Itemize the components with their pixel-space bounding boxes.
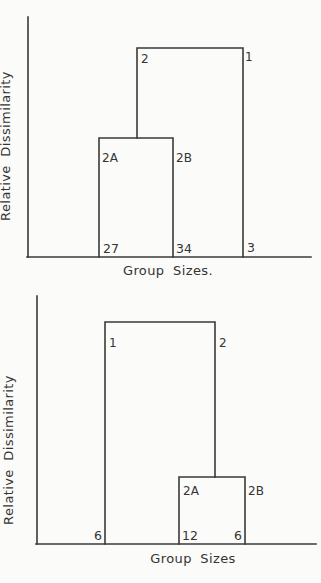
inner-left-cluster-label: 2A xyxy=(102,151,119,165)
y-axis-label: Relative Dissimilarity xyxy=(0,71,13,221)
leaf-size-right: 3 xyxy=(247,240,255,255)
x-axis-label: Group Sizes xyxy=(150,551,236,566)
inner-left-cluster-label: 2A xyxy=(183,484,200,498)
dendrogram-figure: 2 1 2A 2B 27 34 3 Group Sizes. Relative … xyxy=(0,0,321,583)
outer-right-cluster-label: 1 xyxy=(245,50,253,64)
lower-dendrogram: 1 2 2A 2B 6 12 6 Group Sizes Relative Di… xyxy=(0,290,321,583)
outer-cluster-link xyxy=(105,322,215,544)
outer-left-cluster-label: 1 xyxy=(109,336,117,350)
x-axis-label: Group Sizes. xyxy=(123,263,213,278)
y-axis-label: Relative Dissimilarity xyxy=(1,375,16,525)
leaf-size-mid: 12 xyxy=(182,528,198,543)
leaf-size-left: 6 xyxy=(94,528,102,543)
upper-dendrogram-panel: 2 1 2A 2B 27 34 3 Group Sizes. Relative … xyxy=(0,0,321,290)
leaf-size-left: 27 xyxy=(103,241,119,256)
outer-left-cluster-label: 2 xyxy=(141,52,149,66)
outer-right-cluster-label: 2 xyxy=(219,336,227,350)
upper-dendrogram: 2 1 2A 2B 27 34 3 Group Sizes. Relative … xyxy=(0,0,321,290)
leaf-size-mid: 34 xyxy=(176,241,192,256)
lower-dendrogram-panel: 1 2 2A 2B 6 12 6 Group Sizes Relative Di… xyxy=(0,290,321,583)
leaf-size-right: 6 xyxy=(234,528,242,543)
inner-right-cluster-label: 2B xyxy=(176,151,192,165)
inner-right-cluster-label: 2B xyxy=(248,484,264,498)
